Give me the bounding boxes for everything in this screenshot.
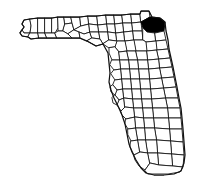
county-region[interactable] [139, 69, 150, 79]
county-region[interactable] [153, 108, 169, 118]
county-region[interactable] [159, 58, 172, 68]
county-region[interactable] [151, 88, 166, 99]
county-region[interactable] [155, 128, 171, 141]
county-region[interactable] [158, 153, 173, 166]
county-region[interactable] [89, 24, 99, 32]
county-region[interactable] [132, 22, 142, 31]
county-region[interactable] [138, 60, 149, 69]
county-region[interactable] [133, 99, 143, 108]
county-region[interactable] [131, 79, 141, 89]
county-region[interactable] [156, 40, 168, 50]
map-figure: Florida county map [0, 0, 198, 185]
county-region[interactable] [133, 31, 143, 40]
county-region[interactable] [30, 18, 38, 33]
county-region[interactable] [115, 23, 124, 33]
county-region[interactable] [170, 129, 183, 142]
county-region[interactable] [171, 141, 184, 155]
county-region[interactable] [121, 69, 131, 79]
county-region[interactable] [143, 108, 154, 118]
county-region[interactable] [114, 15, 123, 24]
county-region[interactable] [122, 79, 132, 89]
county-region[interactable] [111, 69, 122, 80]
county-region[interactable] [38, 18, 45, 33]
county-region[interactable] [166, 98, 180, 108]
county-region[interactable] [110, 60, 121, 70]
county-region[interactable] [132, 89, 142, 99]
county-region[interactable] [97, 15, 107, 25]
county-region[interactable] [152, 98, 168, 108]
county-region[interactable] [142, 99, 153, 108]
county-region[interactable] [45, 18, 52, 33]
county-region[interactable] [52, 17, 58, 33]
county-region[interactable] [160, 67, 174, 78]
county-region[interactable] [124, 31, 134, 41]
county-region[interactable] [136, 128, 146, 140]
county-region[interactable] [140, 79, 151, 89]
county-region[interactable] [168, 108, 181, 118]
county-region[interactable] [146, 41, 157, 51]
county-region[interactable] [169, 118, 182, 129]
county-region[interactable] [141, 89, 152, 99]
county-region[interactable] [155, 31, 166, 41]
florida-county-map[interactable] [0, 0, 198, 185]
county-region[interactable] [124, 98, 134, 108]
county-region[interactable] [120, 60, 130, 69]
county-region[interactable] [154, 118, 170, 129]
county-region[interactable] [130, 69, 140, 79]
county-region[interactable] [134, 108, 144, 118]
county-region[interactable] [125, 117, 136, 129]
county-boundaries-group [20, 11, 184, 174]
county-region[interactable] [116, 32, 125, 41]
county-region[interactable] [135, 117, 145, 128]
county-region[interactable] [146, 140, 158, 153]
county-region[interactable] [98, 24, 108, 32]
county-region[interactable] [164, 87, 178, 98]
county-region[interactable] [162, 77, 176, 88]
county-region[interactable] [144, 118, 155, 128]
county-region[interactable] [123, 89, 133, 99]
county-region[interactable] [131, 14, 141, 23]
county-region[interactable] [172, 154, 184, 167]
county-region[interactable] [129, 60, 139, 69]
county-region[interactable] [148, 59, 160, 69]
county-region[interactable] [106, 15, 115, 24]
county-region[interactable] [157, 49, 170, 59]
county-region[interactable] [157, 140, 172, 154]
county-region[interactable] [136, 51, 148, 60]
county-region[interactable] [123, 23, 133, 32]
